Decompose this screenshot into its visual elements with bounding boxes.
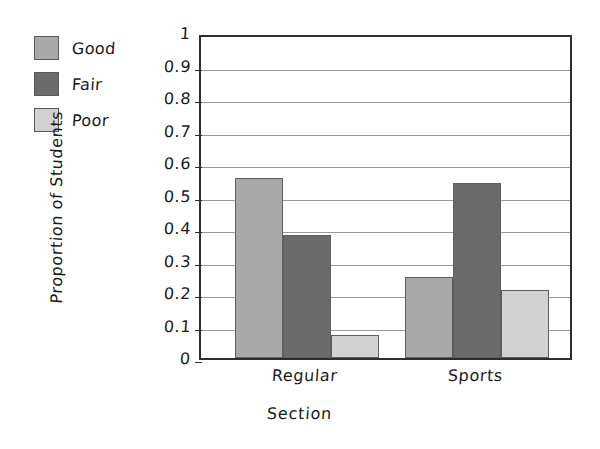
y-tick-mark	[195, 297, 202, 298]
y-tick-label: 0.3	[131, 252, 191, 271]
legend-label-fair: Fair	[71, 75, 103, 94]
bar-regular-poor	[331, 335, 379, 358]
y-tick-label: 0.7	[131, 122, 191, 141]
bar-regular-fair	[283, 235, 331, 358]
bar-sports-poor	[501, 290, 549, 358]
y-tick-mark	[195, 362, 202, 363]
bar-regular-good	[235, 178, 283, 358]
x-axis-title: Section	[0, 404, 600, 423]
y-tick-label: 0.2	[131, 284, 191, 303]
y-tick-mark	[195, 232, 202, 233]
y-tick-label: 0.5	[131, 187, 191, 206]
y-tick-mark	[195, 200, 202, 201]
y-tick-label: 1	[131, 24, 191, 43]
y-tick-mark	[195, 102, 202, 103]
y-tick-label: 0.4	[131, 219, 191, 238]
x-tick-label-regular: Regular	[235, 366, 375, 385]
y-tick-label: 0.6	[131, 154, 191, 173]
y-tick-mark	[195, 265, 202, 266]
bar-chart: Good Fair Poor Proportion of Students 10…	[0, 0, 600, 449]
gridline	[201, 70, 570, 71]
y-tick-label: 0	[131, 349, 191, 368]
y-tick-label: 0.1	[131, 317, 191, 336]
bar-sports-fair	[453, 183, 501, 358]
y-tick-mark	[195, 167, 202, 168]
y-tick-mark	[195, 330, 202, 331]
x-tick-label-sports: Sports	[405, 366, 545, 385]
y-tick-mark	[195, 70, 202, 71]
legend-label-good: Good	[71, 39, 116, 58]
y-tick-mark	[195, 135, 202, 136]
legend-label-poor: Poor	[71, 111, 109, 130]
plot-area	[199, 35, 572, 360]
gridline	[201, 102, 570, 103]
bar-sports-good	[405, 277, 453, 358]
legend-swatch-good	[34, 36, 59, 60]
y-tick-label: 0.8	[131, 89, 191, 108]
y-tick-label: 0.9	[131, 57, 191, 76]
y-axis-title: Proportion of Students	[47, 88, 66, 328]
gridline	[201, 135, 570, 136]
gridline	[201, 167, 570, 168]
